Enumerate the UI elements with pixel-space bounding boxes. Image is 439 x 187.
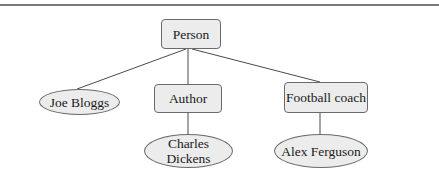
node-charles-dickens-label-line1: Charles	[168, 136, 209, 151]
node-alex-ferguson-label: Alex Ferguson	[281, 144, 361, 159]
node-joe-bloggs-label: Joe Bloggs	[50, 95, 110, 110]
node-football-coach-label: Football coach	[286, 90, 366, 105]
node-person: Person	[161, 19, 221, 49]
node-person-label: Person	[173, 27, 210, 42]
node-charles-dickens: Charles Dickens	[144, 134, 233, 168]
node-charles-dickens-label-line2: Dickens	[166, 151, 210, 166]
node-joe-bloggs: Joe Bloggs	[39, 89, 120, 115]
node-football-coach: Football coach	[284, 82, 368, 113]
node-author: Author	[154, 84, 222, 113]
node-alex-ferguson: Alex Ferguson	[274, 134, 368, 168]
edge-person-joe-bloggs	[77, 49, 186, 89]
diagram-canvas: Person Joe Bloggs Author Football coach …	[0, 0, 439, 187]
edge-person-football-coach	[192, 49, 320, 82]
node-author-label: Author	[169, 91, 207, 106]
